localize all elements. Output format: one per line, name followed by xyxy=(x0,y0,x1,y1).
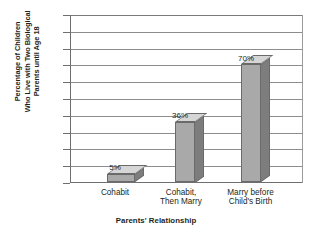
y-tick-mark-80 xyxy=(63,49,70,50)
bar-value-label-cohabit: 5% xyxy=(90,164,140,172)
y-tick-mark-60 xyxy=(63,82,70,83)
bar-side-face xyxy=(195,115,204,182)
y-tick-mark-90 xyxy=(63,32,70,33)
y-axis-title-line-3: Parents until Age 18 xyxy=(32,0,42,140)
bar-cohabit xyxy=(107,174,135,182)
y-tick-mark-0 xyxy=(63,183,70,184)
bar-front-face xyxy=(175,122,195,183)
y-tick-mark-100 xyxy=(63,15,70,16)
y-axis-title: Percentage of Children Who Live with Two… xyxy=(13,0,42,140)
y-tick-mark-70 xyxy=(63,65,70,66)
bar-front-face xyxy=(107,174,135,182)
bar-cohabit-then-marry xyxy=(175,122,195,183)
bar-chart: Percentage of Children Who Live with Two… xyxy=(0,0,312,233)
bar-value-label-cohabit-then-marry: 36% xyxy=(155,112,205,120)
y-tick-mark-50 xyxy=(63,99,70,100)
gridline-80 xyxy=(71,49,302,50)
bar-side-face xyxy=(261,58,270,182)
bar-front-face xyxy=(241,64,261,182)
gridline-100 xyxy=(71,15,302,16)
y-tick-mark-30 xyxy=(63,133,70,134)
x-axis-title: Parents' Relationship xyxy=(0,216,312,225)
gridline-0 xyxy=(71,182,302,183)
y-tick-mark-20 xyxy=(63,149,70,150)
y-axis-title-line-2: Who Live with Two Biological xyxy=(22,0,32,140)
plot-area xyxy=(70,15,303,183)
bar-marry-before-childs-birth xyxy=(241,64,261,182)
y-axis-title-line-1: Percentage of Children xyxy=(13,0,23,140)
gridline-90 xyxy=(71,32,302,33)
x-category-label-marry-before-childs-birth: Marry before Child's Birth xyxy=(208,188,293,207)
bar-value-label-marry-before-childs-birth: 70% xyxy=(221,55,271,63)
y-tick-mark-10 xyxy=(63,166,70,167)
y-tick-mark-40 xyxy=(63,116,70,117)
